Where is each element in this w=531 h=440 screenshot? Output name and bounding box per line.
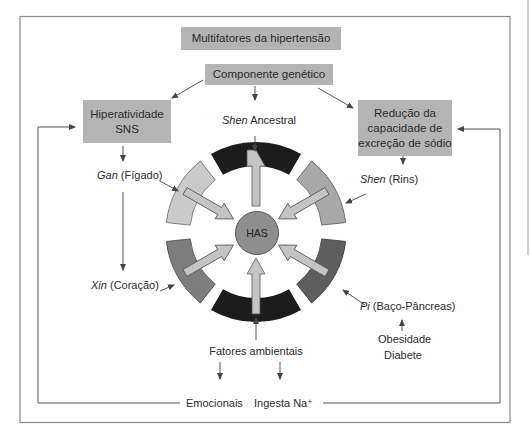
sodium-line1: Redução da xyxy=(374,106,436,121)
sns-line1: Hiperatividade xyxy=(90,107,164,122)
xin-label: Xin (Coração) xyxy=(91,279,159,292)
has-center: HAS xyxy=(235,211,279,255)
sns-line2: SNS xyxy=(115,122,139,137)
genetic-component-box: Componente genético xyxy=(205,64,333,85)
sodium-excretion-box: Redução da capacidade de excreção de sód… xyxy=(358,100,452,156)
pi-label: Pi (Baço-Pâncreas) xyxy=(360,300,455,313)
sns-hyperactivity-box: Hiperatividade SNS xyxy=(83,100,171,143)
environmental-factors-label: Fatores ambientais xyxy=(206,345,306,358)
title: Multifatores da hipertensão xyxy=(192,31,331,46)
sodium-line2: capacidade de xyxy=(368,121,443,136)
shen-ancestral-label: Shen Ancestral xyxy=(222,114,296,127)
sodium-intake-label: Ingesta Na⁺ xyxy=(254,397,313,410)
diabetes-label: Diabete xyxy=(378,349,428,362)
sodium-line3: excreção de sódio xyxy=(358,136,451,151)
shen-rins-label: Shen (Rins) xyxy=(360,173,418,186)
hypertension-diagram: Multifatores da hipertensão Componente g… xyxy=(0,0,531,440)
obesity-label: Obesidade xyxy=(378,333,428,346)
title-box: Multifatores da hipertensão xyxy=(181,27,341,50)
gan-label: Gan (Fígado) xyxy=(97,169,162,182)
genetic-component-label: Componente genético xyxy=(213,67,326,82)
emotional-label: Emocionais xyxy=(186,397,243,410)
